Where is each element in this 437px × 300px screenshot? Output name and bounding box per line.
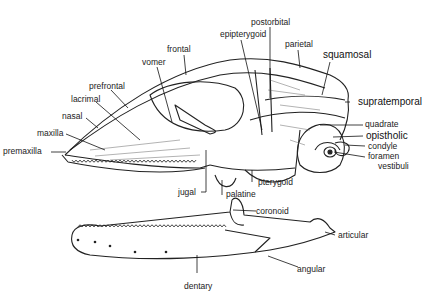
label-parietal: parietal: [285, 40, 313, 49]
label-postorbital: postorbital: [251, 18, 290, 27]
label-pterygoid: pterygoid: [258, 178, 293, 187]
label-premaxilla: premaxilla: [3, 147, 42, 156]
label-vomer: vomer: [142, 58, 166, 67]
label-articular: articular: [338, 231, 368, 240]
label-prefrontal: prefrontal: [89, 82, 125, 91]
label-epipterygoid: epipterygoid: [220, 30, 266, 39]
skull-diagram: epipterygoid postorbital frontal parieta…: [0, 0, 437, 300]
label-jugal: jugal: [178, 188, 196, 197]
label-opistholic: opistholic: [366, 131, 408, 141]
label-condyle: condyle: [368, 142, 397, 151]
label-lacrimal: lacrimal: [71, 95, 100, 104]
label-squamosal: squamosal: [323, 50, 371, 60]
label-dentary: dentary: [184, 282, 212, 291]
label-palatine: palatine: [226, 190, 256, 199]
label-maxilla: maxilla: [37, 129, 63, 138]
label-frontal: frontal: [167, 45, 191, 54]
label-foramen: foramen: [368, 152, 399, 161]
label-nasal: nasal: [62, 112, 82, 121]
label-quadrate: quadrate: [365, 120, 399, 129]
label-supratemporal: supratemporal: [358, 97, 422, 107]
label-angular: angular: [297, 265, 325, 274]
label-coronoid: coronoid: [256, 207, 289, 216]
label-vestibuli: vestibuli: [378, 162, 409, 171]
